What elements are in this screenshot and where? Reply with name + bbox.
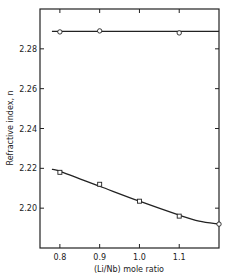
x-tick-label: 0.8	[54, 253, 67, 262]
data-point-square	[98, 182, 102, 186]
y-tick-label: 2.26	[19, 85, 37, 94]
y-axis-title: Refractive index, n	[6, 90, 15, 165]
plot-frame	[40, 9, 219, 248]
data-point-square	[177, 214, 181, 218]
x-axis-title: (Li/Nb) mole ratio	[94, 265, 164, 274]
y-tick-label: 2.22	[19, 164, 37, 173]
data-markers	[58, 29, 222, 227]
fit-line-2	[52, 169, 219, 224]
data-point-circle	[177, 31, 181, 35]
fit-lines	[52, 31, 219, 224]
y-tick-label: 2.24	[19, 125, 37, 134]
data-point-circle	[58, 30, 62, 34]
data-point-circle	[97, 29, 101, 33]
y-tick-label: 2.28	[19, 45, 37, 54]
y-tick-label: 2.20	[19, 204, 37, 213]
data-point-circle	[217, 222, 221, 226]
x-ticks: 0.80.91.01.1	[54, 9, 186, 262]
y-ticks: 2.202.222.242.262.28	[19, 45, 219, 213]
chart: 0.80.91.01.1 2.202.222.242.262.28 (Li/Nb…	[0, 0, 228, 280]
x-tick-label: 1.0	[133, 253, 146, 262]
data-point-square	[58, 170, 62, 174]
x-tick-label: 1.1	[173, 253, 186, 262]
data-point-square	[137, 199, 141, 203]
x-tick-label: 0.9	[93, 253, 106, 262]
